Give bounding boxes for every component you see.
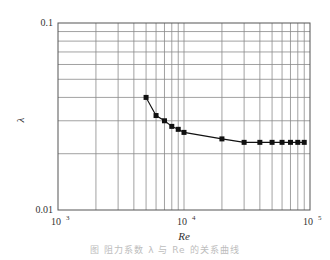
series-line (146, 97, 304, 142)
x-tick-label: 10 (51, 216, 61, 227)
data-point-marker (154, 113, 159, 118)
y-tick-label: 0.1 (41, 17, 54, 28)
data-point-marker (242, 140, 247, 145)
y-tick-label: 0.01 (36, 204, 54, 215)
data-point-marker (176, 127, 181, 132)
friction-factor-chart: 1031041050.10.01 Re λ (0, 0, 330, 260)
x-tick-label: 10 (303, 216, 313, 227)
figure-caption: 图 阻力系数 λ 与 Re 的关系曲线 (0, 243, 330, 256)
data-point-marker (302, 140, 307, 145)
data-point-marker (169, 124, 174, 129)
x-tick-exponent: 4 (192, 214, 196, 222)
x-tick-label: 10 (177, 216, 187, 227)
axis-ticks: 1031041050.10.01 (36, 17, 323, 227)
data-point-marker (295, 140, 300, 145)
x-tick-exponent: 5 (318, 214, 322, 222)
data-point-marker (257, 140, 262, 145)
data-point-marker (270, 140, 275, 145)
data-point-marker (219, 136, 224, 141)
data-point-marker (182, 130, 187, 135)
y-axis-label: λ (14, 117, 26, 123)
x-tick-exponent: 3 (66, 214, 70, 222)
x-axis-label: Re (177, 230, 190, 242)
data-point-marker (280, 140, 285, 145)
data-point-marker (162, 118, 167, 123)
data-point-marker (288, 140, 293, 145)
data-point-marker (144, 95, 149, 100)
grid-lines (58, 23, 310, 210)
